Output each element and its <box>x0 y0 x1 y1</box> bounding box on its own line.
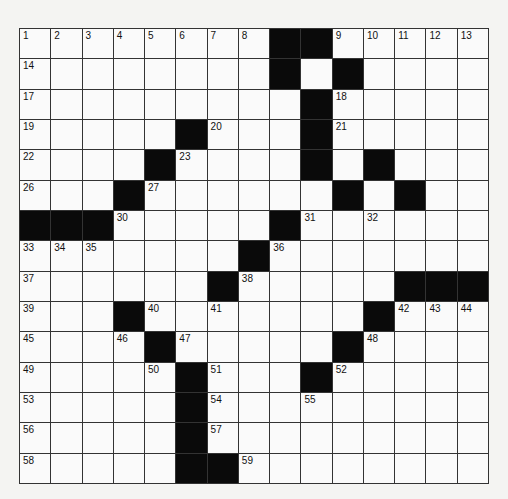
answer-cell[interactable] <box>145 454 175 483</box>
answer-cell[interactable] <box>364 454 394 483</box>
answer-cell[interactable] <box>51 272 81 301</box>
answer-cell[interactable] <box>51 90 81 119</box>
answer-cell[interactable]: 20 <box>208 120 238 149</box>
answer-cell[interactable] <box>83 90 113 119</box>
answer-cell[interactable] <box>208 150 238 179</box>
answer-cell[interactable] <box>239 120 269 149</box>
answer-cell[interactable] <box>51 332 81 361</box>
answer-cell[interactable] <box>395 241 425 270</box>
answer-cell[interactable]: 21 <box>333 120 363 149</box>
answer-cell[interactable] <box>426 241 456 270</box>
answer-cell[interactable] <box>364 423 394 452</box>
answer-cell[interactable]: 40 <box>145 302 175 331</box>
answer-cell[interactable] <box>51 363 81 392</box>
answer-cell[interactable] <box>239 332 269 361</box>
answer-cell[interactable] <box>270 454 300 483</box>
answer-cell[interactable] <box>51 393 81 422</box>
answer-cell[interactable]: 45 <box>20 332 50 361</box>
answer-cell[interactable] <box>301 454 331 483</box>
answer-cell[interactable] <box>426 393 456 422</box>
answer-cell[interactable]: 13 <box>458 29 488 58</box>
answer-cell[interactable] <box>239 363 269 392</box>
answer-cell[interactable] <box>51 423 81 452</box>
answer-cell[interactable]: 57 <box>208 423 238 452</box>
answer-cell[interactable] <box>114 150 144 179</box>
answer-cell[interactable] <box>270 302 300 331</box>
answer-cell[interactable] <box>51 181 81 210</box>
answer-cell[interactable] <box>239 59 269 88</box>
answer-cell[interactable] <box>176 90 206 119</box>
answer-cell[interactable] <box>239 181 269 210</box>
answer-cell[interactable]: 8 <box>239 29 269 58</box>
answer-cell[interactable]: 19 <box>20 120 50 149</box>
answer-cell[interactable] <box>364 120 394 149</box>
answer-cell[interactable] <box>176 211 206 240</box>
answer-cell[interactable] <box>458 393 488 422</box>
answer-cell[interactable] <box>458 150 488 179</box>
answer-cell[interactable] <box>426 90 456 119</box>
answer-cell[interactable] <box>395 211 425 240</box>
answer-cell[interactable] <box>333 393 363 422</box>
answer-cell[interactable]: 27 <box>145 181 175 210</box>
answer-cell[interactable]: 2 <box>51 29 81 58</box>
answer-cell[interactable]: 42 <box>395 302 425 331</box>
answer-cell[interactable] <box>364 393 394 422</box>
answer-cell[interactable]: 54 <box>208 393 238 422</box>
answer-cell[interactable]: 26 <box>20 181 50 210</box>
answer-cell[interactable]: 46 <box>114 332 144 361</box>
answer-cell[interactable] <box>426 332 456 361</box>
answer-cell[interactable] <box>176 59 206 88</box>
answer-cell[interactable] <box>83 454 113 483</box>
answer-cell[interactable] <box>114 90 144 119</box>
answer-cell[interactable]: 58 <box>20 454 50 483</box>
answer-cell[interactable]: 7 <box>208 29 238 58</box>
answer-cell[interactable] <box>333 302 363 331</box>
answer-cell[interactable] <box>51 59 81 88</box>
answer-cell[interactable] <box>333 211 363 240</box>
answer-cell[interactable] <box>239 423 269 452</box>
answer-cell[interactable]: 53 <box>20 393 50 422</box>
answer-cell[interactable]: 37 <box>20 272 50 301</box>
answer-cell[interactable] <box>239 393 269 422</box>
answer-cell[interactable]: 33 <box>20 241 50 270</box>
answer-cell[interactable] <box>145 59 175 88</box>
answer-cell[interactable] <box>208 90 238 119</box>
answer-cell[interactable]: 55 <box>301 393 331 422</box>
answer-cell[interactable] <box>51 454 81 483</box>
answer-cell[interactable]: 14 <box>20 59 50 88</box>
answer-cell[interactable] <box>270 272 300 301</box>
answer-cell[interactable] <box>395 454 425 483</box>
answer-cell[interactable]: 10 <box>364 29 394 58</box>
answer-cell[interactable] <box>426 363 456 392</box>
answer-cell[interactable]: 52 <box>333 363 363 392</box>
answer-cell[interactable] <box>83 120 113 149</box>
answer-cell[interactable] <box>301 181 331 210</box>
answer-cell[interactable] <box>83 59 113 88</box>
answer-cell[interactable]: 59 <box>239 454 269 483</box>
answer-cell[interactable] <box>270 393 300 422</box>
answer-cell[interactable]: 34 <box>51 241 81 270</box>
answer-cell[interactable] <box>114 120 144 149</box>
answer-cell[interactable] <box>364 241 394 270</box>
answer-cell[interactable]: 17 <box>20 90 50 119</box>
answer-cell[interactable] <box>458 332 488 361</box>
answer-cell[interactable] <box>83 363 113 392</box>
answer-cell[interactable]: 44 <box>458 302 488 331</box>
answer-cell[interactable] <box>114 393 144 422</box>
answer-cell[interactable]: 1 <box>20 29 50 58</box>
answer-cell[interactable] <box>270 363 300 392</box>
answer-cell[interactable]: 36 <box>270 241 300 270</box>
answer-cell[interactable] <box>270 90 300 119</box>
answer-cell[interactable] <box>301 423 331 452</box>
answer-cell[interactable] <box>83 302 113 331</box>
answer-cell[interactable] <box>426 423 456 452</box>
answer-cell[interactable] <box>145 120 175 149</box>
answer-cell[interactable]: 30 <box>114 211 144 240</box>
answer-cell[interactable] <box>458 59 488 88</box>
answer-cell[interactable] <box>458 454 488 483</box>
answer-cell[interactable] <box>426 211 456 240</box>
answer-cell[interactable] <box>176 181 206 210</box>
answer-cell[interactable] <box>239 302 269 331</box>
answer-cell[interactable] <box>458 363 488 392</box>
answer-cell[interactable] <box>333 150 363 179</box>
